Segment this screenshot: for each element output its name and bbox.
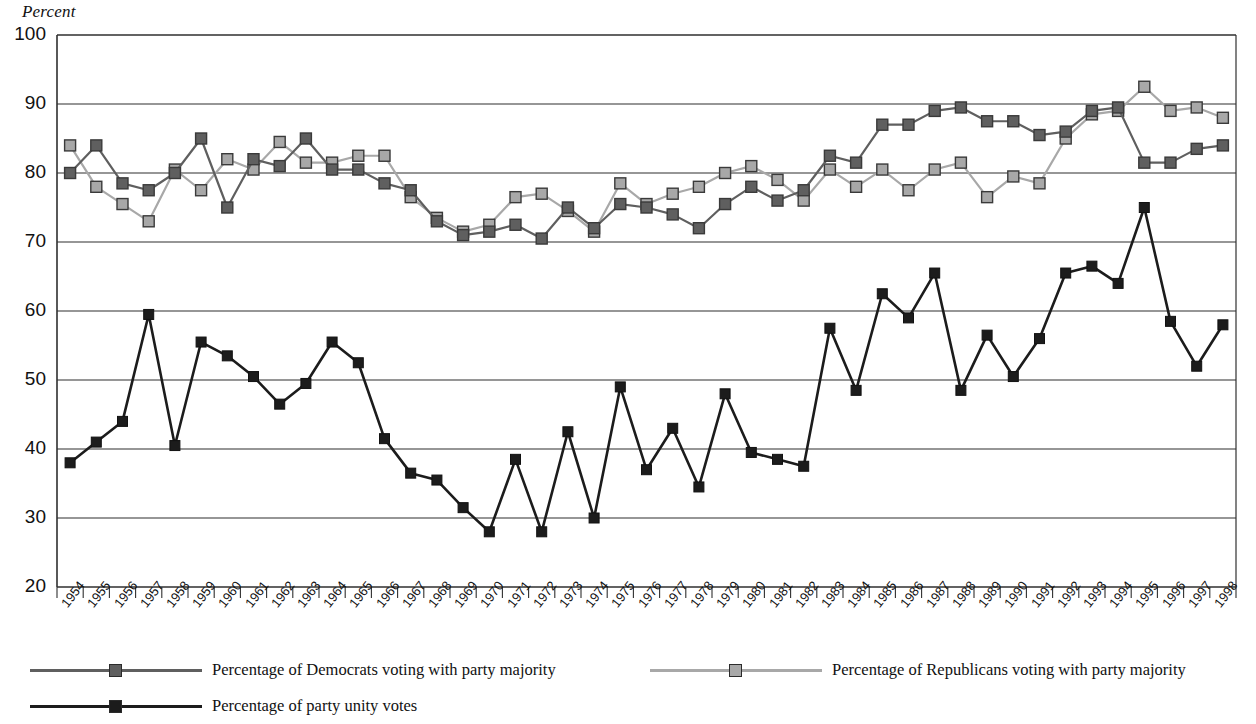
legend-swatch-party-unity <box>30 699 202 713</box>
data-point <box>327 337 337 347</box>
data-point <box>405 185 416 196</box>
data-point <box>196 337 206 347</box>
data-point <box>720 389 730 399</box>
data-point <box>877 289 887 299</box>
data-point <box>91 181 102 192</box>
legend-item-party-unity[interactable]: Percentage of party unity votes <box>30 696 417 716</box>
data-point <box>91 437 101 447</box>
data-point <box>798 195 809 206</box>
y-tick-70: 70 <box>2 230 46 252</box>
data-point <box>196 133 207 144</box>
data-point <box>772 195 783 206</box>
party-unity-chart: Percent 2030405060708090100 195419551956… <box>0 0 1256 724</box>
data-point <box>694 482 704 492</box>
data-point <box>982 192 993 203</box>
y-tick-50: 50 <box>2 368 46 390</box>
data-point <box>169 168 180 179</box>
data-point <box>143 185 154 196</box>
data-point <box>1191 102 1202 113</box>
data-point <box>379 150 390 161</box>
data-point <box>300 157 311 168</box>
data-point <box>484 226 495 237</box>
data-point <box>510 192 521 203</box>
data-point <box>536 233 547 244</box>
data-point <box>589 223 600 234</box>
data-point <box>615 382 625 392</box>
y-tick-30: 30 <box>2 506 46 528</box>
data-point <box>693 181 704 192</box>
data-point <box>773 454 783 464</box>
data-point <box>1165 157 1176 168</box>
data-point <box>300 133 311 144</box>
data-point <box>117 178 128 189</box>
data-point <box>746 161 757 172</box>
legend-label-republicans: Percentage of Republicans voting with pa… <box>832 660 1186 680</box>
data-point <box>1139 203 1149 213</box>
data-point <box>720 199 731 210</box>
series-republicans <box>65 81 1229 237</box>
data-point <box>982 116 993 127</box>
data-point <box>432 475 442 485</box>
data-point <box>641 202 652 213</box>
y-tick-60: 60 <box>2 299 46 321</box>
data-point <box>91 140 102 151</box>
data-point <box>1008 171 1019 182</box>
data-point <box>824 150 835 161</box>
data-point <box>1035 334 1045 344</box>
data-point <box>851 385 861 395</box>
data-point <box>65 458 75 468</box>
data-point <box>1217 140 1228 151</box>
data-point <box>720 168 731 179</box>
data-point <box>144 309 154 319</box>
data-point <box>851 181 862 192</box>
data-point <box>955 102 966 113</box>
data-point <box>143 216 154 227</box>
data-point <box>1034 178 1045 189</box>
data-point <box>1165 105 1176 116</box>
data-point <box>301 378 311 388</box>
data-point <box>353 164 364 175</box>
data-point <box>1086 105 1097 116</box>
data-point <box>642 465 652 475</box>
data-point <box>693 223 704 234</box>
data-point <box>196 185 207 196</box>
data-point <box>1191 143 1202 154</box>
legend-label-party-unity: Percentage of party unity votes <box>212 696 417 716</box>
data-point <box>1008 116 1019 127</box>
data-point <box>1113 278 1123 288</box>
data-point <box>249 372 259 382</box>
data-point <box>274 161 285 172</box>
data-point <box>799 461 809 471</box>
data-point <box>955 157 966 168</box>
data-point <box>353 358 363 368</box>
data-point <box>1139 157 1150 168</box>
data-point <box>615 199 626 210</box>
data-point <box>379 178 390 189</box>
data-point <box>510 219 521 230</box>
data-point <box>877 164 888 175</box>
data-point <box>1217 112 1228 123</box>
data-point <box>746 181 757 192</box>
plot-area <box>0 0 1256 724</box>
data-point <box>903 119 914 130</box>
data-point <box>929 105 940 116</box>
data-point <box>380 434 390 444</box>
data-point <box>1218 320 1228 330</box>
legend-swatch-democrats <box>30 663 202 677</box>
data-point <box>458 230 469 241</box>
data-point <box>982 330 992 340</box>
data-point <box>668 423 678 433</box>
data-point <box>431 216 442 227</box>
data-point <box>1008 372 1018 382</box>
legend-item-democrats[interactable]: Percentage of Democrats voting with part… <box>30 660 556 680</box>
gridlines <box>57 35 1236 587</box>
legend-item-republicans[interactable]: Percentage of Republicans voting with pa… <box>650 660 1186 680</box>
data-point <box>563 427 573 437</box>
data-point <box>824 164 835 175</box>
data-point <box>1113 102 1124 113</box>
legend-label-democrats: Percentage of Democrats voting with part… <box>212 660 556 680</box>
legend-swatch-republicans <box>650 663 822 677</box>
data-point <box>929 164 940 175</box>
data-point <box>117 199 128 210</box>
data-point <box>1087 261 1097 271</box>
